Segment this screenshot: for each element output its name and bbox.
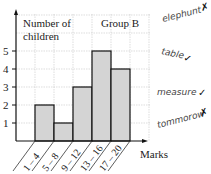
- y-tick-label: 3: [3, 81, 9, 93]
- y-tick-label: 1: [3, 117, 9, 129]
- bar-912: [73, 87, 92, 141]
- histogram-chart: 12345 1 – 45 – 89 – 1213 – 1617 – 20 Num…: [0, 0, 211, 174]
- annotation-elephunt: elephunt ✗: [161, 1, 211, 24]
- x-tick-label: 9 – 12: [59, 147, 83, 173]
- bar-1316: [92, 51, 111, 141]
- cross-icon: ✗: [198, 106, 209, 119]
- annotation-table: table ✓: [160, 46, 193, 64]
- check-icon: ✓: [183, 52, 193, 65]
- y-axis-label-line2: children: [23, 30, 60, 42]
- bar-14: [35, 105, 54, 141]
- y-tick-label: 5: [3, 45, 9, 57]
- y-ticks: 12345: [3, 45, 16, 129]
- bar-1720: [111, 69, 130, 141]
- chart-title: Group B: [101, 17, 139, 29]
- x-tick-labels: 1 – 45 – 89 – 1213 – 1617 – 20: [13, 141, 130, 173]
- annotation-measure: measure ✓: [157, 87, 206, 98]
- annotation-tommorow: tommorow ✗: [156, 106, 210, 130]
- y-axis-label-line1: Number of: [23, 17, 71, 29]
- y-tick-label: 4: [3, 63, 9, 75]
- cross-icon: ✗: [199, 1, 210, 14]
- y-tick-label: 2: [3, 99, 9, 111]
- annotation-word: table: [161, 46, 186, 61]
- bars: [35, 51, 130, 141]
- x-axis-arrow-icon: [142, 139, 148, 143]
- annotation-word: measure: [157, 87, 197, 97]
- bar-58: [54, 123, 73, 141]
- x-axis-label: Marks: [140, 148, 168, 160]
- check-icon: ✓: [198, 87, 206, 98]
- annotation-word: elephunt: [161, 4, 203, 23]
- y-axis-arrow-icon: [14, 9, 18, 15]
